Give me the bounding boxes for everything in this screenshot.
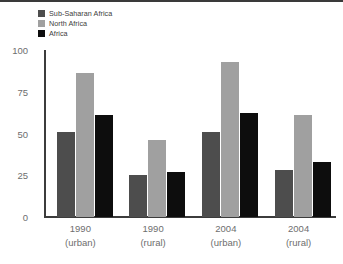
bar-series-container <box>46 50 337 217</box>
y-axis-tick-label: 75 <box>17 86 28 97</box>
bar <box>240 113 258 217</box>
legend-swatch-icon <box>38 10 45 17</box>
y-axis-tick-label: 0 <box>23 212 28 223</box>
legend-swatch-icon <box>38 30 45 37</box>
x-axis-tick-area: (urban) <box>44 236 117 250</box>
x-axis-tick-area: (rural) <box>117 236 190 250</box>
x-axis-tick-label: 1990(rural) <box>117 222 190 250</box>
legend-item-label: North Africa <box>49 19 87 28</box>
bar <box>202 132 220 217</box>
legend-item: North Africa <box>38 19 112 28</box>
bar <box>294 115 312 217</box>
y-axis-tick-label: 100 <box>12 45 28 56</box>
legend-item: Sub-Saharan Africa <box>38 9 112 18</box>
y-axis-tick-labels: 0255075100 <box>0 50 28 217</box>
bar-chart-figure: Sub-Saharan AfricaNorth AfricaAfrica 025… <box>0 0 343 264</box>
bar <box>275 170 293 217</box>
x-axis-tick-area: (urban) <box>190 236 263 250</box>
bar <box>129 175 147 217</box>
y-axis-tick-label: 25 <box>17 170 28 181</box>
legend-item-label: Africa <box>49 29 68 38</box>
x-axis-tick-year: 1990 <box>44 222 117 236</box>
bar-group <box>57 50 113 217</box>
bar <box>76 73 94 217</box>
bar <box>95 115 113 217</box>
legend-item: Africa <box>38 29 112 38</box>
x-axis-tick-year: 2004 <box>262 222 335 236</box>
y-axis-tick-label: 50 <box>17 128 28 139</box>
legend-item-label: Sub-Saharan Africa <box>49 9 112 18</box>
top-border-rule <box>0 0 343 2</box>
bar <box>148 140 166 217</box>
x-axis-tick-year: 2004 <box>190 222 263 236</box>
bar-group <box>129 50 185 217</box>
x-axis-tick-label: 1990(urban) <box>44 222 117 250</box>
x-axis-tick-labels: 1990(urban)1990(rural)2004(urban)2004(ru… <box>44 222 336 256</box>
x-axis-tick-area: (rural) <box>262 236 335 250</box>
bar <box>57 132 75 217</box>
bar-group <box>275 50 331 217</box>
x-axis-tick-label: 2004(rural) <box>262 222 335 250</box>
x-axis-tick-label: 2004(urban) <box>190 222 263 250</box>
bar <box>313 162 331 217</box>
bar <box>221 62 239 217</box>
chart-legend: Sub-Saharan AfricaNorth AfricaAfrica <box>38 9 112 39</box>
x-axis-tick-year: 1990 <box>117 222 190 236</box>
bar <box>167 172 185 217</box>
bar-group <box>202 50 258 217</box>
legend-swatch-icon <box>38 20 45 27</box>
